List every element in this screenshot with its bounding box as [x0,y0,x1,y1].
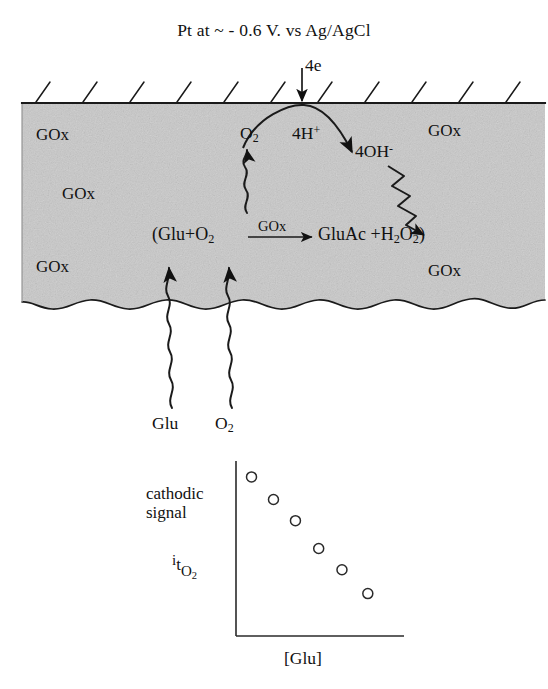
gox-label: GOx [428,122,461,139]
chart-axes [236,461,404,636]
chart-y-axis-label: cathodic signal [146,484,204,522]
reaction-equation-right: GluAc +H2O2) [318,224,425,247]
membrane-layer [22,103,545,309]
gox-label: GOx [62,185,95,202]
gox-label: GOx [428,262,461,279]
gox-label: GOx [36,126,69,143]
chart-x-axis-label: [Glu] [284,648,322,669]
chart-data-point [268,494,278,504]
dissolved-oxygen-label: O2 [240,125,259,145]
chart-data-point [363,589,373,599]
figure-canvas: Pt at ~ - 0.6 V. vs Ag/AgCl [0,0,548,689]
hydroxide-label: 4OH- [355,143,393,161]
gox-label: GOx [36,258,69,275]
oxygen-influx-label: O2 [215,415,234,435]
chart-data-points [247,472,373,599]
reaction-equation-left: (Glu+O2 [152,224,214,247]
proton-label: 4H+ [292,125,320,143]
glucose-influx-label: Glu [152,415,178,433]
chart-data-point [337,565,347,575]
electrode-hatching [36,82,520,102]
catalyst-label: GOx [258,218,286,235]
chart-data-point [290,516,300,526]
chart-y-axis-symbol: itO2 [172,556,197,576]
chart-data-point [247,472,257,482]
chart-data-point [314,544,324,554]
diagram-vector-layer [0,0,548,689]
electron-label: 4e [305,57,322,75]
